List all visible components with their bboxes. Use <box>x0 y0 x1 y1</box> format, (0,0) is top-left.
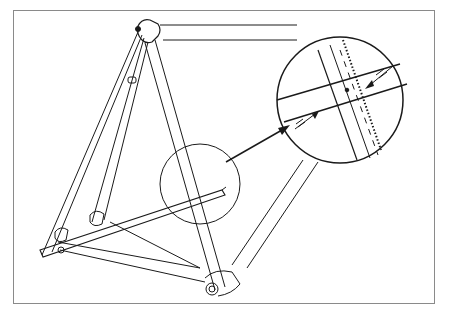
dropout-right <box>90 211 104 225</box>
detail-marker-circle <box>160 144 240 224</box>
head-lug <box>138 20 161 43</box>
bicycle-frame-illustration <box>0 0 450 317</box>
magnified-inset <box>277 37 407 163</box>
straightedge <box>40 187 226 257</box>
seat-tube <box>145 40 225 290</box>
caption <box>0 307 450 317</box>
chain-stay <box>58 222 205 282</box>
down-tube <box>232 160 318 268</box>
seat-stay-right <box>92 38 148 222</box>
top-tube <box>160 25 297 40</box>
detail-arrow <box>226 125 290 162</box>
